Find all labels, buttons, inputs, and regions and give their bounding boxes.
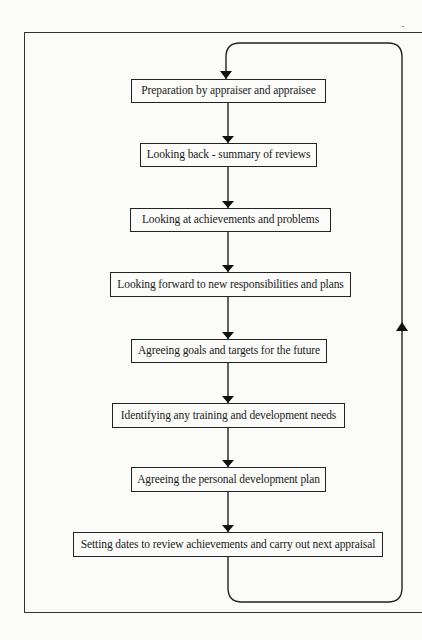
step-label: Looking forward to new responsibilities … [117,279,343,291]
step-preparation: Preparation by appraiser and appraisee [131,79,326,103]
step-label: Agreeing the personal development plan [137,474,320,486]
arrow-down-icon [222,525,234,532]
step-label: Identifying any training and development… [121,410,336,422]
step-label: Looking at achievements and problems [142,214,319,226]
step-personal-development-plan: Agreeing the personal development plan [131,467,326,492]
arrow-down-icon [222,265,234,272]
arrow-up-icon [396,322,408,331]
arrow-down-icon [220,71,232,79]
arrow-down-icon [222,136,234,143]
step-achievements-problems: Looking at achievements and problems [130,208,331,232]
step-label: Looking back - summary of reviews [147,149,311,161]
arrow-down-icon [222,460,234,467]
arrowheads [220,71,408,532]
step-label: Agreeing goals and targets for the futur… [138,345,320,357]
appraisal-cycle-diagram: Preparation by appraiser and appraisee L… [0,0,422,640]
step-training-needs: Identifying any training and development… [112,403,345,428]
step-agreeing-goals: Agreeing goals and targets for the futur… [131,339,327,363]
step-label: Preparation by appraiser and appraisee [141,85,315,97]
feedback-loop [226,43,402,602]
arrow-down-icon [222,396,234,403]
step-label: Setting dates to review achievements and… [81,539,376,551]
arrow-down-icon [222,332,234,339]
step-setting-dates: Setting dates to review achievements and… [73,532,383,557]
step-looking-back: Looking back - summary of reviews [140,143,317,167]
step-looking-forward: Looking forward to new responsibilities … [110,272,351,297]
arrow-down-icon [222,201,234,208]
